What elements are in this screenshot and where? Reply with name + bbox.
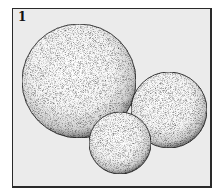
figure-number-label: 1 xyxy=(18,10,26,24)
small-sphere xyxy=(89,112,151,174)
spheres-illustration xyxy=(0,0,221,194)
